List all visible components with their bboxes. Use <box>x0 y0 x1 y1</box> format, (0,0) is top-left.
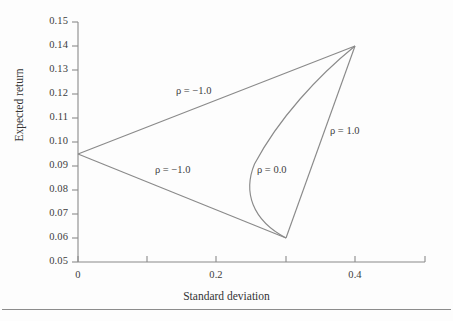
y-tick-label-0-07: 0.07 <box>34 207 68 218</box>
y-tick-label-0-13: 0.13 <box>34 63 68 74</box>
annotation-rho-neg1-upper: ρ = −1.0 <box>176 85 211 96</box>
annotation-rho-neg1-lower: ρ = −1.0 <box>155 164 190 175</box>
annotation-rho-pos1: ρ = 1.0 <box>330 125 360 136</box>
x-tick-label-0: 0 <box>58 269 98 280</box>
y-tick-label-0-14: 0.14 <box>34 39 68 50</box>
series-rho-neg1-upper <box>78 46 355 154</box>
y-tick-label-0-12: 0.12 <box>34 87 68 98</box>
footer-divider <box>2 309 451 310</box>
chart-figure: 0.15 0.14 0.13 0.12 0.11 0.10 0.09 0.08 … <box>0 0 453 321</box>
y-tick-label-0-06: 0.06 <box>34 231 68 242</box>
y-tick-label-0-11: 0.11 <box>34 111 68 122</box>
x-axis-title: Standard deviation <box>0 290 453 302</box>
y-tick-label-0-15: 0.15 <box>34 15 68 26</box>
y-axis-title: Expected return <box>13 50 25 160</box>
x-axis-ticks <box>78 256 425 262</box>
x-tick-label-0-4: 0.4 <box>335 269 375 280</box>
series-rho-zero <box>250 46 355 238</box>
series-rho-pos1 <box>286 46 355 238</box>
y-tick-label-0-10: 0.10 <box>34 135 68 146</box>
y-tick-label-0-08: 0.08 <box>34 183 68 194</box>
annotation-rho-zero: ρ = 0.0 <box>257 164 287 175</box>
y-tick-label-0-09: 0.09 <box>34 159 68 170</box>
x-tick-label-0-2: 0.2 <box>196 269 236 280</box>
y-axis-ticks <box>72 22 78 262</box>
y-tick-label-0-05: 0.05 <box>34 255 68 266</box>
